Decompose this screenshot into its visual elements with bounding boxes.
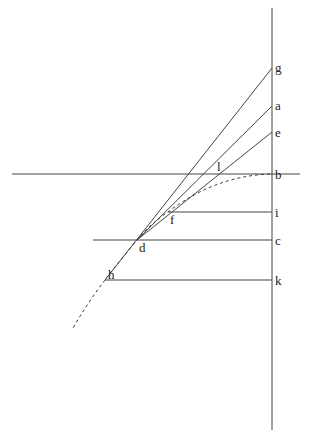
label-a: a	[275, 98, 281, 113]
geometric-diagram: g a e b i c k l f d h	[0, 0, 317, 435]
line-a-d	[137, 106, 272, 240]
line-e-d	[137, 132, 272, 240]
label-e: e	[275, 125, 281, 140]
label-i: i	[275, 205, 279, 220]
label-b: b	[275, 167, 282, 182]
label-f: f	[170, 212, 175, 227]
label-c: c	[275, 233, 281, 248]
label-l: l	[217, 159, 221, 174]
label-k: k	[275, 273, 282, 288]
label-d: d	[139, 240, 146, 255]
dashed-curve	[73, 174, 270, 328]
label-h: h	[108, 267, 115, 282]
label-g: g	[275, 60, 282, 75]
